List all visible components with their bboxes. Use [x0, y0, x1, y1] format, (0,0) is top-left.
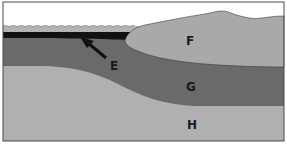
label-f: F: [186, 34, 194, 48]
label-e: E: [110, 59, 118, 73]
water-layer: [3, 26, 140, 33]
cross-section-diagram: F E G H: [0, 0, 287, 149]
label-g: G: [186, 80, 196, 94]
label-h: H: [187, 118, 197, 132]
